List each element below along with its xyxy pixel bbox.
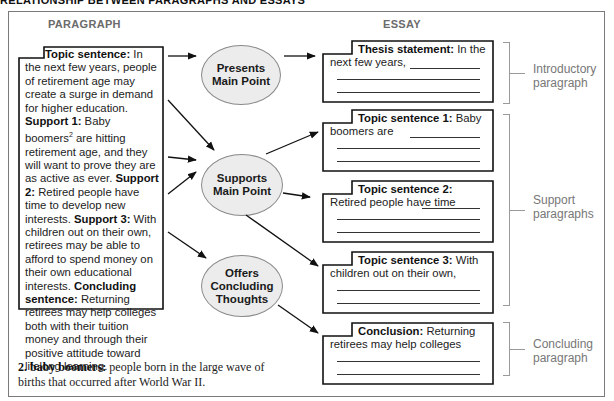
bracket-tick <box>510 349 525 350</box>
concluding-paragraph-label: Concluding paragraph <box>533 337 593 365</box>
introductory-paragraph-label: Introductory paragraph <box>533 62 596 90</box>
connector-arrows <box>0 0 614 401</box>
support-bracket <box>503 114 510 306</box>
concluding-bracket <box>503 322 510 376</box>
label-line: Concluding <box>533 337 593 351</box>
footnote: 2. baby boomers: people born in the larg… <box>18 360 264 389</box>
introductory-bracket <box>503 42 510 104</box>
support-paragraphs-label: Support paragraphs <box>533 193 594 221</box>
footnote-definition: people born in the large wave of <box>106 360 264 374</box>
label-line: paragraphs <box>533 207 594 221</box>
label-line: Introductory <box>533 62 596 76</box>
footnote-term: 2. baby boomers: <box>18 360 106 374</box>
footnote-definition-line2: births that occurred after World War II. <box>18 375 264 390</box>
label-line: Support <box>533 193 594 207</box>
bracket-tick <box>510 210 525 211</box>
label-line: paragraph <box>533 351 593 365</box>
label-line: paragraph <box>533 76 596 90</box>
bracket-tick <box>510 73 525 74</box>
